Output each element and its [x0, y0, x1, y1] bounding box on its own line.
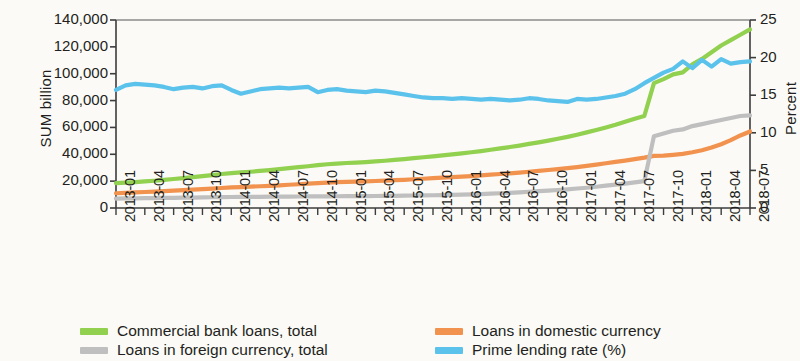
x-axis-tick-label: 2014-04 [266, 170, 282, 222]
x-axis-tick-label: 2015-04 [381, 170, 397, 222]
legend-item-label: Loans in domestic currency [472, 322, 661, 340]
x-axis-tick-label: 2018-01 [698, 170, 714, 222]
y-axis-right-tick-label: 15 [760, 85, 800, 102]
x-axis-tick-label: 2013-04 [151, 170, 167, 222]
x-axis-tick-label: 2015-01 [353, 170, 369, 222]
y-axis-left-tick-label: 80,000 [23, 91, 108, 108]
x-axis-tick-label: 2016-10 [554, 170, 570, 222]
y-axis-left-tick-label: 100,000 [23, 64, 108, 81]
legend-item[interactable]: Loans in foreign currency, total [80, 341, 328, 359]
legend-color-swatch-icon [435, 347, 463, 354]
legend-item[interactable]: Commercial bank loans, total [80, 322, 317, 340]
legend-color-swatch-icon [80, 347, 108, 354]
legend-color-swatch-icon [80, 328, 108, 335]
x-axis-tick-label: 2016-01 [468, 170, 484, 222]
chart-figure: SUM billion Percent 020,00040,00060,0008… [0, 0, 800, 361]
legend-item-label: Loans in foreign currency, total [117, 341, 328, 359]
y-axis-right-tick-label: 25 [760, 10, 800, 27]
y-axis-right-tick-label: 10 [760, 123, 800, 140]
y-axis-left-tick-label: 40,000 [23, 144, 108, 161]
series-line [116, 29, 750, 183]
x-axis-tick-label: 2014-10 [324, 170, 340, 222]
y-axis-left-tick-label: 60,000 [23, 117, 108, 134]
x-axis-tick-label: 2015-07 [410, 170, 426, 222]
y-axis-left-tick-label: 20,000 [23, 171, 108, 188]
x-axis-tick-label: 2013-10 [208, 170, 224, 222]
x-axis-tick-label: 2014-01 [237, 170, 253, 222]
x-axis-tick-label: 2013-07 [180, 170, 196, 222]
x-axis-tick-label: 2015-10 [439, 170, 455, 222]
legend-color-swatch-icon [435, 328, 463, 335]
y-axis-left-tick-label: 140,000 [23, 10, 108, 27]
legend-item-label: Prime lending rate (%) [472, 341, 626, 359]
x-axis-tick-label: 2013-01 [122, 170, 138, 222]
legend-item[interactable]: Prime lending rate (%) [435, 341, 626, 359]
x-axis-tick-label: 2016-07 [525, 170, 541, 222]
x-axis-tick-label: 2017-01 [583, 170, 599, 222]
legend-item-label: Commercial bank loans, total [117, 322, 317, 340]
x-axis-tick-label: 2018-07 [756, 170, 772, 222]
x-axis-tick-label: 2017-04 [612, 170, 628, 222]
chart-legend: Commercial bank loans, totalLoans in dom… [80, 322, 780, 361]
x-axis-tick-label: 2014-07 [295, 170, 311, 222]
y-axis-left-tick-label: 120,000 [23, 37, 108, 54]
y-axis-right-tick-label: 20 [760, 48, 800, 65]
x-axis-tick-label: 2018-04 [727, 170, 743, 222]
x-axis-tick-label: 2016-04 [497, 170, 513, 222]
y-axis-left-tick-label: 0 [23, 198, 108, 215]
x-axis-tick-label: 2017-10 [670, 170, 686, 222]
x-axis-tick-label: 2017-07 [641, 170, 657, 222]
legend-item[interactable]: Loans in domestic currency [435, 322, 661, 340]
